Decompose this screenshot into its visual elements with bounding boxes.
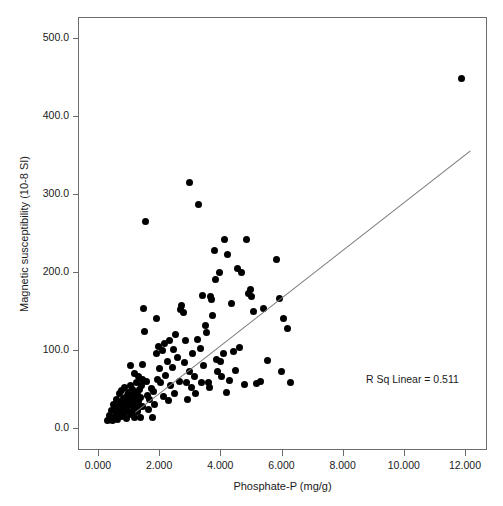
y-tick-label: 500.0 <box>23 31 69 43</box>
y-tick-mark <box>73 428 78 429</box>
data-point <box>228 300 235 307</box>
data-point <box>139 361 146 368</box>
y-tick-mark <box>73 194 78 195</box>
y-tick-label: 100.0 <box>23 343 69 355</box>
data-point <box>127 362 134 369</box>
data-point <box>247 286 254 293</box>
x-tick-mark <box>465 450 466 456</box>
scatter-plot-figure: 0.0100.0200.0300.0400.0500.0 0.0002.0004… <box>0 0 503 506</box>
data-point <box>169 364 176 371</box>
x-tick-label: 0.000 <box>63 459 133 471</box>
data-point <box>211 247 218 254</box>
data-point <box>149 414 156 421</box>
data-point <box>181 359 188 366</box>
x-tick-label: 2.000 <box>124 459 194 471</box>
data-point <box>159 347 166 354</box>
x-axis-title: Phosphate-P (mg/g) <box>0 480 503 492</box>
y-tick-mark <box>73 350 78 351</box>
data-point <box>189 350 196 357</box>
data-point <box>199 292 206 299</box>
data-point <box>143 378 150 385</box>
x-tick-label: 8.000 <box>308 459 378 471</box>
data-point <box>186 179 193 186</box>
x-tick-mark <box>159 450 160 456</box>
x-tick-mark <box>404 450 405 456</box>
y-tick-mark <box>73 272 78 273</box>
y-tick-label: 400.0 <box>23 109 69 121</box>
data-point <box>280 315 287 322</box>
data-point <box>202 322 209 329</box>
data-point <box>135 373 142 380</box>
data-point <box>226 377 233 384</box>
x-tick-label: 4.000 <box>185 459 255 471</box>
y-tick-label: 0.0 <box>23 421 69 433</box>
data-point <box>236 344 243 351</box>
data-point <box>217 358 224 365</box>
y-tick-mark <box>73 116 78 117</box>
data-point <box>142 218 149 225</box>
r-squared-annotation: R Sq Linear = 0.511 <box>366 373 459 385</box>
data-point <box>257 378 264 385</box>
x-tick-mark <box>282 450 283 456</box>
x-tick-mark <box>220 450 221 456</box>
data-point <box>206 384 213 391</box>
data-point <box>170 346 177 353</box>
data-point <box>458 75 465 82</box>
data-point <box>141 328 148 335</box>
x-tick-mark <box>343 450 344 456</box>
data-point <box>223 389 230 396</box>
data-point <box>153 315 160 322</box>
data-point <box>241 381 248 388</box>
x-tick-label: 10.000 <box>369 459 439 471</box>
data-point <box>238 269 245 276</box>
y-tick-mark <box>73 38 78 39</box>
data-point <box>165 397 172 404</box>
data-point <box>197 345 204 352</box>
data-point <box>216 269 223 276</box>
data-point <box>156 365 163 372</box>
x-tick-label: 6.000 <box>247 459 317 471</box>
data-point <box>243 236 250 243</box>
y-axis-title: Magnetic susceptibility (10-8 SI) <box>18 156 30 312</box>
x-tick-label: 12.000 <box>430 459 500 471</box>
data-point <box>232 367 239 374</box>
data-point <box>180 309 187 316</box>
data-point <box>191 373 198 380</box>
x-tick-mark <box>98 450 99 456</box>
